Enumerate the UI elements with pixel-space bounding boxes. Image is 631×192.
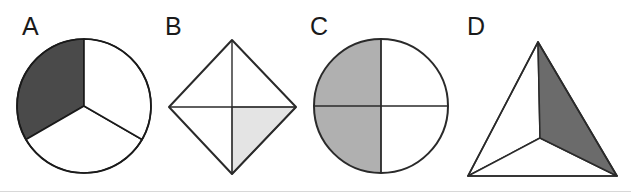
panel-a: A <box>17 12 151 173</box>
figure-container: A B C <box>0 0 631 192</box>
panel-b: B <box>165 12 296 174</box>
panel-label-b: B <box>165 12 182 40</box>
panel-c: C <box>310 12 448 173</box>
shape-fractions-figure: A B C <box>0 0 631 192</box>
panel-label-d: D <box>467 12 485 40</box>
panel-label-c: C <box>310 12 328 40</box>
panel-d: D <box>467 12 617 176</box>
panel-label-a: A <box>22 12 39 40</box>
